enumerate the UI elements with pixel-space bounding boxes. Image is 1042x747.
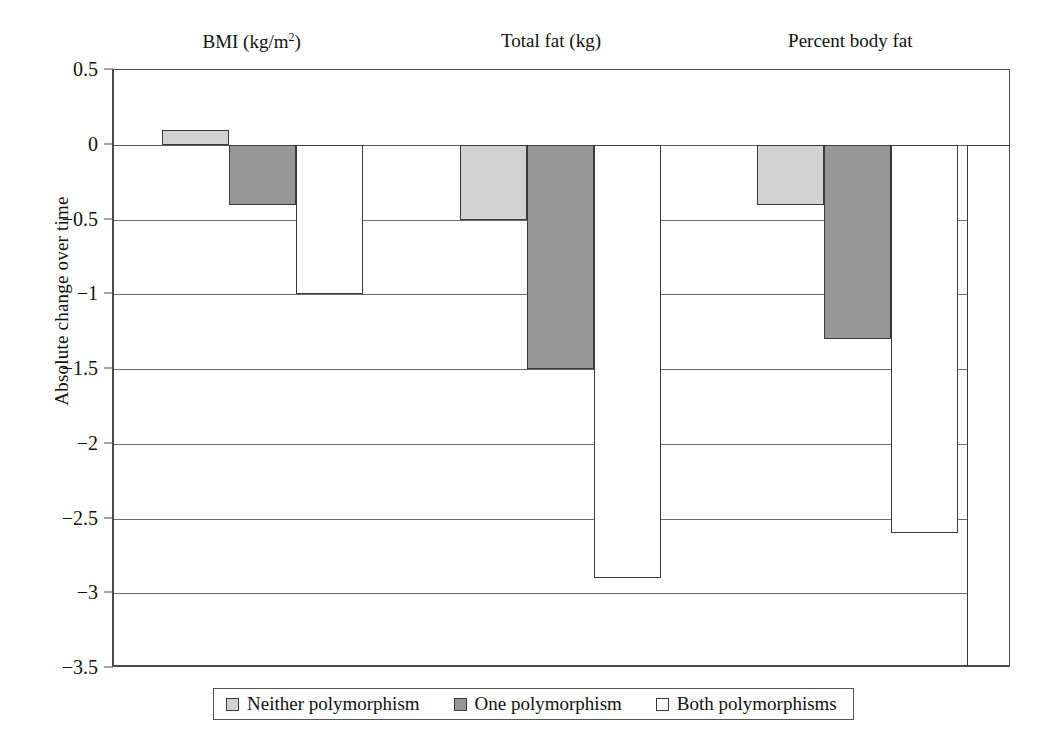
gridline bbox=[114, 593, 1009, 594]
y-tick-label: 0.5 bbox=[73, 59, 98, 79]
y-tick-label: −1.5 bbox=[62, 358, 98, 378]
legend-swatch-icon bbox=[656, 698, 669, 711]
group-title-2: Total fat (kg) bbox=[501, 30, 601, 52]
bar-neither-3 bbox=[757, 145, 824, 205]
gridline bbox=[114, 519, 1009, 520]
legend-swatch-icon bbox=[454, 698, 467, 711]
bar-chart-figure: Absolute change over time 0.50−0.5−1−1.5… bbox=[0, 0, 1042, 747]
gridline bbox=[114, 369, 1009, 370]
y-tick-label: 0 bbox=[88, 134, 98, 154]
y-tick-label: −0.5 bbox=[62, 209, 98, 229]
legend-label: Both polymorphisms bbox=[677, 693, 837, 715]
legend-swatch-icon bbox=[226, 698, 239, 711]
legend-item-2: One polymorphism bbox=[454, 693, 622, 715]
y-tick-label: −2 bbox=[77, 433, 98, 453]
superscript: 2 bbox=[289, 30, 295, 44]
bar-one-2 bbox=[527, 145, 594, 369]
legend-label: One polymorphism bbox=[475, 693, 622, 715]
legend-item-3: Both polymorphisms bbox=[656, 693, 837, 715]
y-tick-label: −2.5 bbox=[62, 508, 98, 528]
legend-label: Neither polymorphism bbox=[247, 693, 420, 715]
group-title-1: BMI (kg/m2) bbox=[202, 30, 300, 53]
bar-both-1 bbox=[296, 145, 363, 295]
chart-legend: Neither polymorphismOne polymorphismBoth… bbox=[213, 688, 854, 720]
bar-both-2 bbox=[594, 145, 661, 579]
legend-item-1: Neither polymorphism bbox=[226, 693, 420, 715]
y-axis-tick-labels: 0.50−0.5−1−1.5−2−2.5−3−3.5 bbox=[0, 0, 112, 747]
bar-one-1 bbox=[229, 145, 296, 205]
plot-area bbox=[112, 69, 1010, 667]
group-title-3: Percent body fat bbox=[788, 30, 913, 52]
y-tick-label: −3 bbox=[77, 582, 98, 602]
y-tick-label: −3.5 bbox=[62, 657, 98, 677]
bar-clipped-edge bbox=[967, 145, 1010, 667]
bar-neither-1 bbox=[162, 130, 229, 145]
gridline bbox=[114, 444, 1009, 445]
y-tick-label: −1 bbox=[77, 283, 98, 303]
bar-one-3 bbox=[824, 145, 891, 339]
bar-both-3 bbox=[891, 145, 958, 534]
bar-neither-2 bbox=[460, 145, 527, 220]
